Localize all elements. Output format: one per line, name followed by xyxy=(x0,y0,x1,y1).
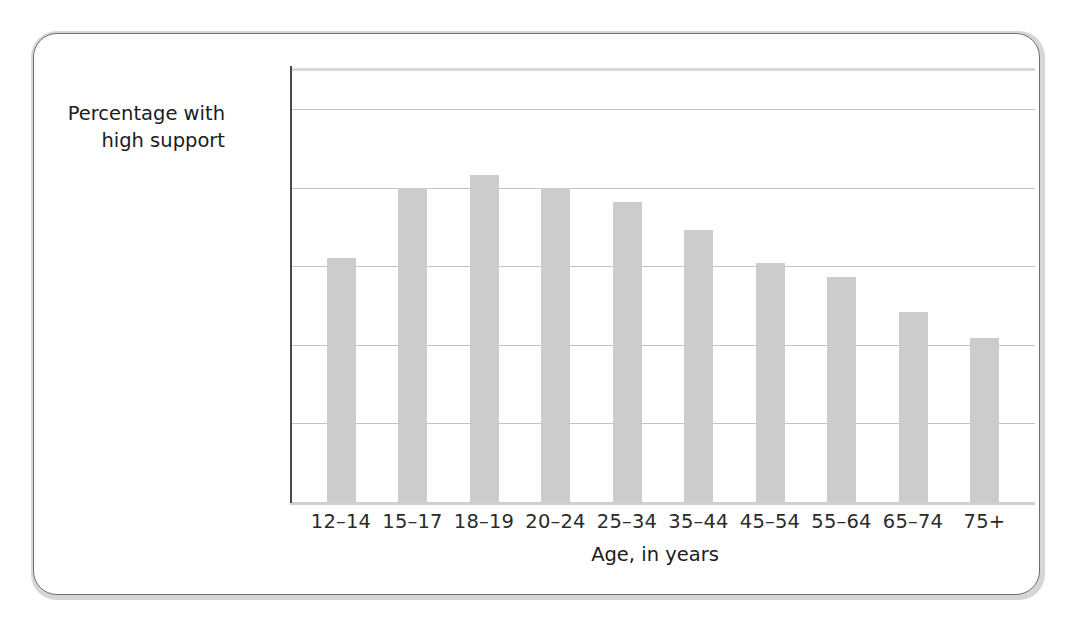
chart-page: Percentage with high support 50607080901… xyxy=(0,0,1075,620)
y-axis-title-line-1: Percentage with xyxy=(60,100,225,127)
gridline-50 xyxy=(290,502,1035,505)
bar xyxy=(327,258,356,502)
bar xyxy=(470,175,499,502)
x-tick-label: 75+ xyxy=(925,510,1045,533)
bar xyxy=(398,188,427,503)
gridline-100 xyxy=(290,109,1035,110)
bar xyxy=(756,263,785,502)
plot-top-rule xyxy=(290,68,1035,71)
bar xyxy=(684,230,713,502)
bar xyxy=(827,277,856,502)
plot-area xyxy=(290,68,1035,502)
bar xyxy=(613,202,642,502)
x-axis-title: Age, in years xyxy=(540,543,770,566)
y-axis-title: Percentage with high support xyxy=(60,100,225,154)
y-axis-title-line-2: high support xyxy=(60,127,225,154)
bar xyxy=(899,312,928,502)
bar xyxy=(970,338,999,502)
bar xyxy=(541,188,570,502)
y-axis-line xyxy=(290,66,292,503)
